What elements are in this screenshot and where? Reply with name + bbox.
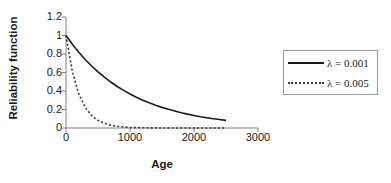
legend-item-label: λ = 0.005: [327, 77, 369, 89]
x-tick-label: 3000: [233, 131, 283, 143]
reliability-function-chart: Reliability function 1.2 1 0.8 0.6 0.4 0…: [0, 0, 391, 183]
legend-line-solid-icon: [288, 58, 324, 68]
x-tick-label: 0: [41, 131, 91, 143]
legend-item: λ = 0.001: [284, 53, 379, 73]
series-line-lambda-0005: [66, 36, 226, 129]
x-axis-ticks: [66, 128, 258, 132]
legend-line-dotted-icon: [288, 78, 324, 88]
y-axis-ticks: [62, 17, 66, 128]
x-tick-label: 2000: [169, 131, 219, 143]
legend-item: λ = 0.005: [284, 73, 379, 93]
x-tick-label: 1000: [105, 131, 155, 143]
chart-legend: λ = 0.001 λ = 0.005: [283, 50, 378, 95]
series-line-lambda-0001: [66, 36, 226, 121]
legend-item-label: λ = 0.001: [327, 57, 369, 69]
x-axis-title: Age: [66, 158, 258, 170]
